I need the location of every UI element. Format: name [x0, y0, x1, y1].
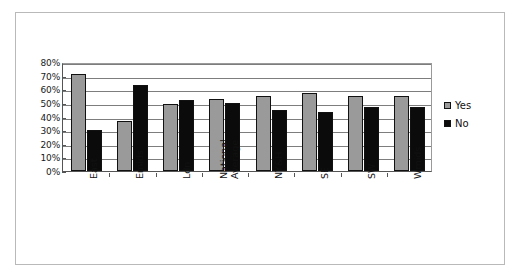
yes-swatch-icon — [444, 102, 451, 109]
x-axis-category-label: NY&H — [274, 152, 284, 179]
bar-chart: 80%70%60%50%40%30%20%10%0% EastEmidsLdnN… — [0, 0, 521, 280]
x-axis-tick-mark — [387, 173, 388, 177]
y-axis: 80%70%60%50%40%30%20%10%0% — [20, 55, 60, 180]
x-axis-category-label: SE — [320, 167, 330, 179]
y-axis-tick-label: 10% — [20, 154, 60, 163]
gridline — [63, 91, 431, 92]
bar-yes-ny-h — [256, 96, 271, 171]
x-axis-category-label: Wmids — [413, 147, 423, 179]
x-axis-category-label: SW — [367, 164, 377, 179]
gridline — [63, 78, 431, 79]
bar-no-sw — [364, 107, 379, 171]
x-axis-category-label-line: National — [219, 139, 230, 179]
bar-yes-wmids — [394, 96, 409, 171]
y-axis-tick-label: 80% — [20, 59, 60, 68]
legend-item-no: No — [444, 118, 504, 129]
legend-item-yes: Yes — [444, 100, 504, 111]
y-axis-tick-label: 60% — [20, 86, 60, 95]
bar-no-ldn — [179, 100, 194, 171]
y-axis-tick-label: 30% — [20, 127, 60, 136]
x-axis-tick-mark — [248, 173, 249, 177]
y-axis-tick-label: 20% — [20, 141, 60, 150]
plot-area — [62, 63, 432, 172]
x-axis-category-label: Ldn — [182, 162, 192, 179]
x-axis-category-label: NationalAverage — [219, 139, 240, 179]
bar-yes-se — [302, 93, 317, 171]
x-axis-category-label: Emids — [135, 150, 145, 179]
bar-yes-ldn — [163, 104, 178, 171]
chart-legend: YesNo — [444, 100, 504, 136]
x-axis-category-label-line: Average — [229, 139, 240, 179]
y-axis-tick-label: 0% — [20, 168, 60, 177]
bar-no-se — [318, 112, 333, 171]
gridline — [63, 105, 431, 106]
x-axis-category-label: East — [89, 159, 99, 180]
y-axis-tick-mark — [62, 172, 66, 173]
gridline — [63, 64, 431, 65]
x-axis-tick-mark — [109, 173, 110, 177]
bar-yes-sw — [348, 96, 363, 171]
x-axis-tick-mark — [341, 173, 342, 177]
bar-yes-east — [71, 74, 86, 171]
x-axis-tick-mark — [294, 173, 295, 177]
y-axis-tick-label: 70% — [20, 73, 60, 82]
x-axis-tick-mark — [202, 173, 203, 177]
y-axis-tick-label: 50% — [20, 100, 60, 109]
no-swatch-icon — [444, 120, 451, 127]
legend-label: No — [455, 118, 469, 129]
y-axis-tick-label: 40% — [20, 114, 60, 123]
bar-yes-emids — [117, 121, 132, 171]
legend-label: Yes — [455, 100, 471, 111]
x-axis-tick-mark — [156, 173, 157, 177]
